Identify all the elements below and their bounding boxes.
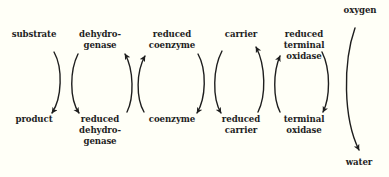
label-substrate: substrate (12, 29, 57, 40)
arrow-reduced-dehydrogenase-to-dehydrogenase (125, 54, 132, 112)
label-line: terminal (284, 114, 325, 125)
label-line: reduced (222, 114, 260, 125)
label-coenzyme: coenzyme (149, 114, 195, 125)
label-line: terminal (284, 40, 325, 51)
arrow-oxygen-to-water (346, 28, 359, 150)
label-reduced-coenzyme: reduced coenzyme (149, 29, 195, 51)
label-line: dehydro- (79, 29, 121, 40)
label-dehydrogenase: dehydro- genase (79, 29, 121, 51)
label-line: oxygen (344, 5, 377, 16)
label-carrier: carrier (225, 29, 257, 40)
label-line: reduced (284, 29, 325, 40)
label-line: coenzyme (149, 40, 195, 51)
label-water: water (346, 157, 372, 168)
label-line: dehydro- (79, 125, 121, 136)
label-line: product (15, 114, 52, 125)
arrow-carrier-to-reduced-carrier (215, 51, 222, 113)
label-reduced-dehydrogenase: reduced dehydro- genase (79, 114, 121, 146)
arrow-dehydrogenase-to-reduced-dehydrogenase (72, 54, 79, 113)
label-line: water (346, 157, 372, 168)
arrow-reduced-carrier-to-carrier (256, 47, 264, 112)
label-reduced-carrier: reduced carrier (222, 114, 260, 136)
label-line: substrate (12, 29, 57, 40)
label-line: reduced (149, 29, 195, 40)
label-terminal-oxidase: terminal oxidase (284, 114, 325, 136)
label-line: genase (79, 40, 121, 51)
label-line: reduced (79, 114, 121, 125)
label-line: genase (79, 136, 121, 147)
label-line: coenzyme (149, 114, 195, 125)
arrows-layer (0, 0, 389, 177)
label-reduced-terminal-oxidase: reduced terminal oxidase (284, 29, 325, 61)
arrow-reduced-coenzyme-to-coenzyme (197, 54, 204, 113)
label-oxygen: oxygen (344, 5, 377, 16)
label-line: carrier (225, 29, 257, 40)
arrow-terminal-oxidase-to-reduced-terminal-oxidase (275, 56, 280, 112)
arrow-coenzyme-to-reduced-coenzyme (138, 56, 145, 112)
label-line: oxidase (284, 51, 325, 62)
label-line: oxidase (284, 125, 325, 136)
arrow-substrate-to-product (52, 52, 60, 113)
label-product: product (15, 114, 52, 125)
label-line: carrier (222, 125, 260, 136)
